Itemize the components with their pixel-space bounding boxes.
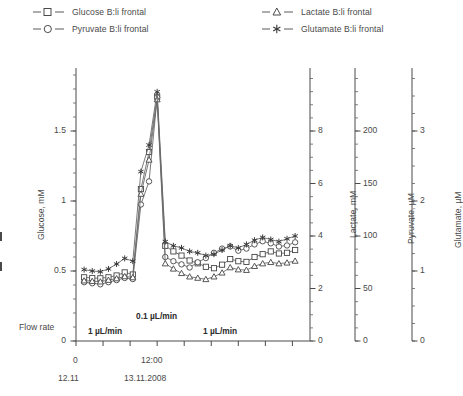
edge-artifact-upper bbox=[0, 232, 2, 241]
y-tick-label: 1.5 bbox=[0, 125, 66, 135]
flow-annotation-right: 1 µL/min bbox=[203, 326, 237, 336]
y-tick-label: 150 bbox=[363, 178, 377, 188]
y-tick-label: 1 bbox=[0, 195, 66, 205]
y-tick-label: 50 bbox=[363, 283, 373, 293]
y-tick-label: 6 bbox=[318, 178, 323, 188]
y-tick-label: 8 bbox=[318, 125, 323, 135]
x-tick-label-noon: 12:00 bbox=[141, 355, 163, 365]
x-tick-label-0: 0 bbox=[73, 355, 78, 365]
y-tick-label: 0 bbox=[318, 335, 323, 345]
flow-annotation-left: 1 µL/min bbox=[88, 326, 122, 336]
axis-title-lactate: Lactate, mM bbox=[348, 191, 358, 238]
axis-title-glutamate: Glutamate, µM bbox=[453, 191, 463, 248]
x-date-start: 12.11 bbox=[58, 373, 79, 383]
y-tick-label: 0 bbox=[363, 335, 368, 345]
y-tick-label: 0.5 bbox=[0, 265, 66, 275]
flow-annotation-mid: 0.1 µL/min bbox=[136, 311, 177, 321]
y-tick-label: 200 bbox=[363, 125, 377, 135]
y-tick-label: 2 bbox=[420, 195, 425, 205]
y-tick-label: 2 bbox=[318, 283, 323, 293]
y-tick-label: 0 bbox=[420, 335, 425, 345]
y-tick-label: 4 bbox=[318, 230, 323, 240]
y-tick-label: 100 bbox=[363, 230, 377, 240]
axis-title-pyruvate: Pyruvate, µM bbox=[406, 193, 416, 244]
y-tick-label: 1 bbox=[420, 265, 425, 275]
y-tick-label: 3 bbox=[420, 125, 425, 135]
y-tick-label: 0 bbox=[0, 335, 66, 345]
series-glutamate bbox=[81, 89, 297, 275]
x-date-main: 13.11.2008 bbox=[124, 373, 166, 383]
flow-rate-label: Flow rate bbox=[19, 322, 54, 332]
